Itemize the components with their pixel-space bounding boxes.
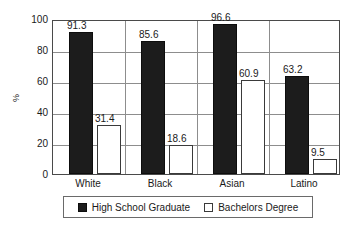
y-tick-20: 20	[2, 139, 48, 149]
legend-swatch-dark-icon	[78, 203, 87, 212]
bar-label-black-high-school-graduate: 85.6	[139, 29, 158, 40]
bar-asian-bachelors-degree	[241, 80, 265, 174]
bar-white-bachelors-degree	[97, 125, 121, 174]
x-tick-asian: Asian	[196, 178, 268, 190]
bar-label-latino-bachelors-degree: 9.5	[311, 147, 325, 158]
bar-label-white-bachelors-degree: 31.4	[95, 113, 114, 124]
legend-entry-high-school-graduate: High School Graduate	[78, 202, 190, 213]
bar-group-latino: 63.2 9.5	[269, 21, 341, 174]
bar-label-latino-high-school-graduate: 63.2	[283, 64, 302, 75]
x-tick-black: Black	[124, 178, 196, 190]
bar-black-bachelors-degree	[169, 145, 193, 174]
y-tick-80: 80	[2, 46, 48, 56]
bar-label-white-high-school-graduate: 91.3	[67, 20, 86, 31]
legend-swatch-light-icon	[204, 203, 213, 212]
legend-label-bachelors-degree: Bachelors Degree	[218, 202, 298, 213]
bar-group-black: 85.6 18.6	[125, 21, 197, 174]
y-tick-100: 100	[2, 15, 48, 25]
bar-label-asian-high-school-graduate: 96.6	[211, 12, 230, 23]
bar-asian-high-school-graduate	[213, 24, 237, 174]
bar-label-black-bachelors-degree: 18.6	[167, 133, 186, 144]
plot-area: 91.3 31.4 85.6 18.6 96.6 60.9 63.2 9.5	[52, 20, 340, 175]
y-axis-ticks: 100 80 60 40 20 0	[0, 20, 48, 175]
x-tick-white: White	[52, 178, 124, 190]
y-tick-60: 60	[2, 77, 48, 87]
y-tick-40: 40	[2, 108, 48, 118]
bar-group-white: 91.3 31.4	[53, 21, 125, 174]
legend-label-high-school-graduate: High School Graduate	[92, 202, 190, 213]
legend-entry-bachelors-degree: Bachelors Degree	[204, 202, 298, 213]
bar-chart: % 100 80 60 40 20 0 91.3 31.4 85.6 18.6	[0, 0, 360, 231]
bar-black-high-school-graduate	[141, 41, 165, 174]
bar-latino-high-school-graduate	[285, 76, 309, 174]
bar-label-asian-bachelors-degree: 60.9	[239, 68, 258, 79]
y-tick-0: 0	[2, 170, 48, 180]
bar-white-high-school-graduate	[69, 32, 93, 174]
chart-legend: High School Graduate Bachelors Degree	[63, 196, 313, 218]
bar-group-asian: 96.6 60.9	[197, 21, 269, 174]
x-tick-latino: Latino	[268, 178, 340, 190]
bar-latino-bachelors-degree	[313, 159, 337, 174]
